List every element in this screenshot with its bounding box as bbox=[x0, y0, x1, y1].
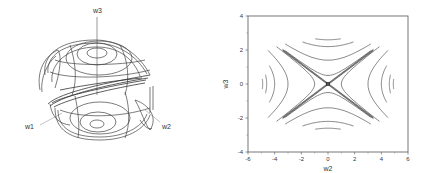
upper-surface bbox=[39, 40, 150, 95]
contour-line bbox=[269, 66, 274, 103]
y-tick-label: 2 bbox=[240, 47, 244, 53]
y-axis-label: w3 bbox=[222, 79, 229, 89]
contour-line bbox=[315, 128, 341, 129]
contour-line bbox=[302, 42, 353, 47]
x-tick-label: -4 bbox=[272, 156, 278, 162]
contour-line bbox=[268, 50, 288, 117]
contour-line bbox=[285, 93, 370, 118]
contour-line bbox=[368, 50, 388, 117]
y-axis-ticks: -4-2024 bbox=[238, 13, 248, 155]
x-axis-label: w2 bbox=[323, 165, 333, 172]
contour-figure: -6-4-20246 -4-2024 w2 w3 bbox=[216, 0, 432, 173]
x-tick-label: 4 bbox=[380, 156, 384, 162]
contour-line bbox=[285, 51, 370, 76]
contour-line bbox=[302, 121, 353, 126]
y-tick-label: -2 bbox=[238, 115, 244, 121]
x-tick-label: 0 bbox=[326, 156, 330, 162]
w3-axis-label: w3 bbox=[92, 7, 102, 14]
lower-surface bbox=[50, 86, 153, 140]
contour-line bbox=[381, 66, 386, 103]
x-tick-label: 2 bbox=[353, 156, 357, 162]
y-tick-label: -4 bbox=[238, 149, 244, 155]
w2-axis-label: w2 bbox=[161, 123, 171, 130]
contour-plot: -6-4-20246 -4-2024 w2 w3 bbox=[216, 0, 432, 173]
x-tick-label: -2 bbox=[299, 156, 305, 162]
surface-3d-plot: w3 w1 w2 bbox=[0, 0, 216, 173]
w1-axis-label: w1 bbox=[24, 123, 34, 130]
contour-line bbox=[389, 75, 390, 93]
y-tick-label: 4 bbox=[240, 13, 244, 19]
surface-3d-figure: w3 w1 w2 bbox=[0, 0, 216, 173]
x-tick-label: 6 bbox=[406, 156, 410, 162]
contour-lines bbox=[262, 39, 393, 129]
contour-line bbox=[266, 75, 267, 93]
y-tick-label: 0 bbox=[240, 81, 244, 87]
contour-line bbox=[315, 39, 341, 40]
x-tick-label: -6 bbox=[245, 156, 251, 162]
x-axis-ticks: -6-4-20246 bbox=[245, 152, 410, 162]
